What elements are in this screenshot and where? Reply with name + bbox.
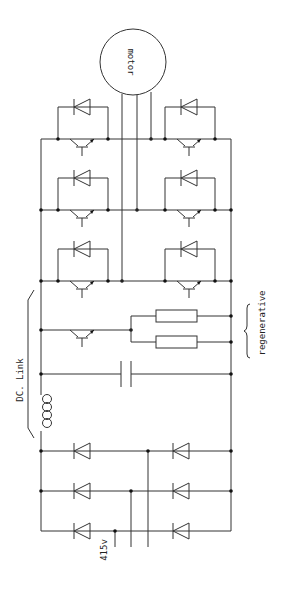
regenerative-label: regenerative <box>257 290 267 355</box>
dc-rails <box>41 139 231 531</box>
vfd-circuit-diagram: motor <box>0 0 283 590</box>
rectifier-bridge <box>39 443 233 547</box>
inverter <box>39 99 233 298</box>
dc-link-capacitor <box>39 361 233 387</box>
regenerative-annotation: regenerative <box>244 290 267 358</box>
motor: motor <box>100 29 166 95</box>
inverter-cell <box>39 241 110 298</box>
brake-resistor <box>156 310 197 322</box>
inverter-cell <box>163 170 233 227</box>
inverter-cell <box>39 170 110 227</box>
regenerative-brake <box>39 310 233 348</box>
motor-leads <box>120 92 153 283</box>
inverter-cell <box>163 241 233 298</box>
inverter-cell <box>56 99 110 156</box>
motor-label: motor <box>126 48 136 76</box>
inverter-cell <box>163 99 217 156</box>
dc-link-label: DC. Link <box>15 358 25 402</box>
brake-resistor <box>156 336 197 348</box>
dc-link-inductor <box>40 395 52 432</box>
supply-voltage-label: 415v <box>99 539 109 561</box>
dc-link-annotation: DC. Link <box>15 290 35 438</box>
